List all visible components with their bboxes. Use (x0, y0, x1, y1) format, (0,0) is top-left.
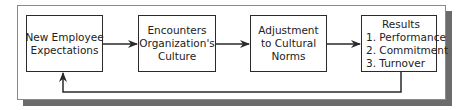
node-label-line: Expectations (31, 44, 99, 57)
results-item-performance: 1. Performance (366, 31, 446, 44)
node-label-line: Organization's (139, 37, 214, 50)
node-label-line: Culture (158, 50, 196, 63)
results-item-commitment: 2. Commitment (366, 44, 448, 57)
results-item-turnover: 3. Turnover (366, 57, 425, 70)
node-label-line: New Employee (25, 31, 103, 44)
node-label-line: Adjustment (258, 24, 318, 37)
node-label-line: Encounters (147, 24, 206, 37)
node-results: Results 1. Performance 2. Commitment 3. … (361, 15, 437, 72)
node-label-line: to Cultural (261, 37, 316, 50)
node-adjustment-to-cultural-norms: Adjustment to Cultural Norms (250, 15, 327, 72)
node-label-line: Norms (271, 50, 305, 63)
node-new-employee-expectations: New Employee Expectations (26, 15, 103, 72)
results-title: Results (382, 18, 420, 31)
node-encounters-organization-culture: Encounters Organization's Culture (138, 15, 216, 72)
